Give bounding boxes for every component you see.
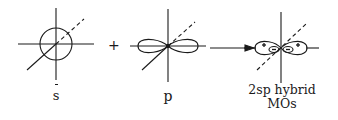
plus-operator: + [108,38,120,52]
plus-sign-right [296,43,300,47]
s-diagonal-axis-dashed [56,19,84,44]
hybrid-label-line2: MOs [246,97,318,111]
s-label-bar [55,84,58,85]
plus-sign-left [262,43,266,47]
p-diagonal-axis-dashed [168,22,195,46]
p-nucleus [166,44,169,47]
hybrid-label: 2sp hybrid MOs [246,83,318,111]
p-diagonal-axis-solid [142,46,168,70]
p-orbital [130,9,206,82]
s-label-text: s [53,88,60,103]
p-orbital-label: p [158,88,178,104]
hybrid-large-lobe-left [255,41,281,54]
s-orbital [18,8,94,80]
s-orbital-label: s [46,84,66,103]
hybrid-label-line1: 2sp hybrid [246,83,318,97]
s-diagonal-axis-solid [27,44,56,70]
hybrid-orbitals [244,12,319,83]
